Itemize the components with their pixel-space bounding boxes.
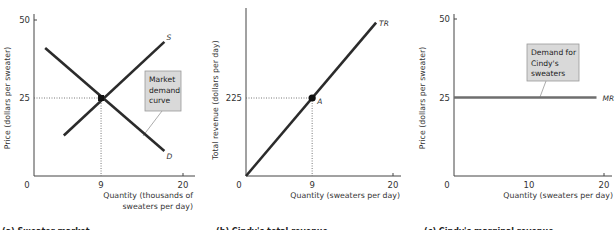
- x-tick-label: 9: [309, 180, 314, 190]
- callout-text-line: Cindy's: [531, 59, 559, 68]
- series-label-tr: TR: [379, 19, 389, 28]
- x-tick-label: 0: [444, 180, 449, 190]
- panel-c-ylabel: Price (dollars per sweater): [418, 47, 427, 150]
- x-tick-label: 20: [388, 180, 399, 190]
- panel-c-marginal-revenue: Price (dollars per sweater) Quantity (sw…: [418, 14, 614, 230]
- x-tick-label: 20: [599, 180, 610, 190]
- x-tick-label: 10: [524, 180, 535, 190]
- panel-a-xlabel-line2: sweaters per day): [123, 202, 193, 211]
- x-tick-label: 9: [98, 180, 103, 190]
- y-tick-label: 25: [19, 93, 30, 103]
- x-tick-label: 0: [236, 180, 241, 190]
- y-tick-label: 25: [439, 93, 450, 103]
- callout-leader-line: [143, 111, 162, 136]
- callout-text-line: Market: [149, 75, 175, 84]
- y-tick-label: 225: [226, 93, 242, 103]
- series-label-s: S: [166, 33, 171, 42]
- series-label-d: D: [166, 152, 172, 161]
- y-tick-label: 50: [19, 15, 30, 25]
- panel-a-caption: (a) Sweater market: [2, 227, 90, 230]
- panel-a-sweater-market: Price (dollars per sweater) Quantity (th…: [2, 14, 195, 230]
- panel-b-total-revenue: Total revenue (dollars per day) Quantity…: [211, 8, 401, 230]
- point-marker-a: [309, 94, 316, 101]
- equilibrium-marker: [98, 95, 104, 101]
- point-label-a: A: [316, 97, 322, 106]
- panel-a-xlabel-line1: Quantity (thousands of: [103, 191, 193, 200]
- panel-b-xlabel: Quantity (sweaters per day): [290, 191, 400, 200]
- panel-a-ylabel: Price (dollars per sweater): [3, 47, 12, 150]
- panel-c-xlabel: Quantity (sweaters per day): [503, 191, 613, 200]
- y-tick-label: 50: [439, 14, 450, 24]
- x-tick-label: 0: [24, 180, 29, 190]
- callout-text-line: demand: [149, 86, 180, 95]
- callout-text-line: Demand for: [531, 48, 577, 57]
- panel-b-ylabel: Total revenue (dollars per day): [211, 40, 220, 161]
- figure: Price (dollars per sweater) Quantity (th…: [0, 0, 615, 230]
- series-label-mr: MR: [603, 94, 615, 103]
- callout-text-line: curve: [149, 96, 171, 105]
- panel-b-caption: (b) Cindy's total revenue: [216, 227, 329, 230]
- x-tick-label: 20: [178, 180, 189, 190]
- panel-c-caption: (c) Cindy's marginal revenue: [424, 227, 554, 230]
- callout-leader-line: [540, 81, 546, 97]
- callout-text-line: sweaters: [531, 69, 565, 78]
